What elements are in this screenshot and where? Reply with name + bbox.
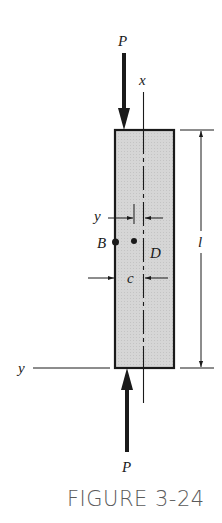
offset-y-label: y <box>92 208 101 224</box>
load-bottom-arrow-head <box>121 368 133 390</box>
column-body <box>115 130 174 368</box>
point-d-dot <box>131 238 137 244</box>
load-top-arrow-head <box>118 108 130 130</box>
load-top-label: P <box>117 33 127 49</box>
column-diagram: x P P y l y B D c FIGURE 3-24 <box>0 0 222 523</box>
load-bottom-label: P <box>121 459 131 475</box>
point-b-label: B <box>97 235 106 251</box>
offset-c-label: c <box>127 270 134 286</box>
axis-y-label: y <box>16 360 25 376</box>
length-label: l <box>198 234 202 250</box>
point-d-label: D <box>149 245 161 261</box>
figure-caption: FIGURE 3-24 <box>67 487 205 511</box>
axis-x-label: x <box>138 72 146 88</box>
point-b-dot <box>112 239 119 246</box>
